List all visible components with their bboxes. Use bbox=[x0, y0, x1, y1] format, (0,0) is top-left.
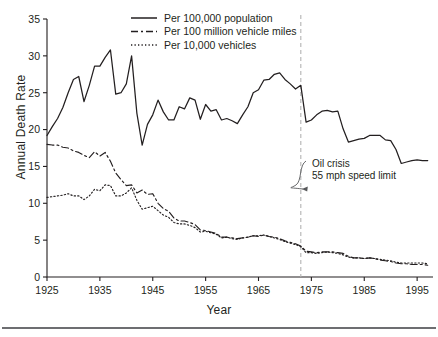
x-axis-title: Year bbox=[0, 303, 438, 317]
axis-tick-labels: 0510152025303519251935194519551965197519… bbox=[28, 13, 429, 296]
svg-text:20: 20 bbox=[28, 123, 40, 135]
svg-text:25: 25 bbox=[28, 87, 40, 99]
legend-label-0: Per 100,000 population bbox=[164, 12, 273, 24]
svg-text:35: 35 bbox=[28, 13, 40, 25]
svg-text:1965: 1965 bbox=[247, 284, 271, 296]
svg-text:1945: 1945 bbox=[141, 284, 165, 296]
annotation-line-2: 55 mph speed limit bbox=[312, 170, 396, 181]
svg-text:1985: 1985 bbox=[353, 284, 377, 296]
series-line-1 bbox=[47, 144, 428, 265]
series-line-0 bbox=[47, 50, 428, 164]
chart-legend: Per 100,000 populationPer 100 million ve… bbox=[131, 12, 296, 51]
svg-text:10: 10 bbox=[28, 197, 40, 209]
y-axis-title: Annual Death Rate bbox=[14, 52, 28, 202]
data-series-group bbox=[47, 50, 428, 265]
svg-text:0: 0 bbox=[34, 271, 40, 283]
annotation-line-1: Oil crisis bbox=[312, 158, 350, 169]
svg-text:1925: 1925 bbox=[35, 284, 59, 296]
svg-text:1935: 1935 bbox=[88, 284, 112, 296]
svg-text:15: 15 bbox=[28, 160, 40, 172]
oil-crisis-annotation: Oil crisis55 mph speed limit bbox=[291, 158, 396, 192]
svg-text:30: 30 bbox=[28, 50, 40, 62]
figure-container: 0510152025303519251935194519551965197519… bbox=[0, 0, 438, 337]
legend-label-1: Per 100 million vehicle miles bbox=[164, 25, 296, 37]
legend-label-2: Per 10,000 vehicles bbox=[164, 39, 256, 51]
series-line-2 bbox=[47, 185, 428, 264]
svg-text:1955: 1955 bbox=[194, 284, 218, 296]
svg-text:1995: 1995 bbox=[405, 284, 429, 296]
footer-rule bbox=[2, 327, 436, 329]
svg-text:5: 5 bbox=[34, 234, 40, 246]
svg-text:1975: 1975 bbox=[300, 284, 324, 296]
line-chart: 0510152025303519251935194519551965197519… bbox=[0, 0, 438, 337]
